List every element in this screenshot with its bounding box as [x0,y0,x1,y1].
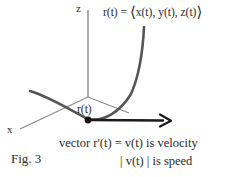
x-axis-label: x [7,124,13,135]
figure-3-diagram: z x r(t) = ⟨x(t), y(t), z(t)⟩ r(t) vecto… [0,0,243,177]
angle-bracket-close-icon: ⟩ [196,6,202,18]
speed-caption: | v(t) | is speed [120,155,192,168]
position-formula-components: x(t), y(t), z(t) [136,6,197,18]
velocity-vector-shaft [88,120,163,121]
z-axis-label: z [76,3,81,14]
position-vector-point-label: r(t) [77,104,92,116]
position-function-formula: r(t) = ⟨x(t), y(t), z(t)⟩ [103,6,202,19]
velocity-caption: vector r'(t) = v(t) is velocity [59,137,198,150]
figure-number-label: Fig. 3 [11,152,41,165]
point-of-tangency-dot [85,117,92,124]
position-formula-lhs: r(t) = [103,6,130,18]
